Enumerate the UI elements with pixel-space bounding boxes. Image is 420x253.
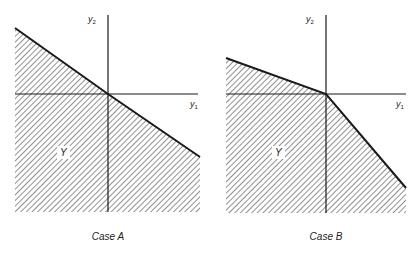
caption-case-b: Case B xyxy=(310,231,343,242)
feasible-region-case-b xyxy=(226,58,406,213)
panel-case-a: Y y2 y1 Case A xyxy=(15,14,200,242)
y-axis-label-case-b: y2 xyxy=(305,14,315,25)
panel-case-b: Y y2 y1 Case B xyxy=(226,14,406,242)
production-set-diagram: Y y2 y1 Case A Y y2 y1 Case B xyxy=(0,0,420,253)
x-axis-label-case-a: y1 xyxy=(189,99,199,110)
caption-case-a: Case A xyxy=(92,231,125,242)
y-axis-label-case-a: y2 xyxy=(87,14,97,25)
x-axis-label-case-b: y1 xyxy=(395,99,405,110)
